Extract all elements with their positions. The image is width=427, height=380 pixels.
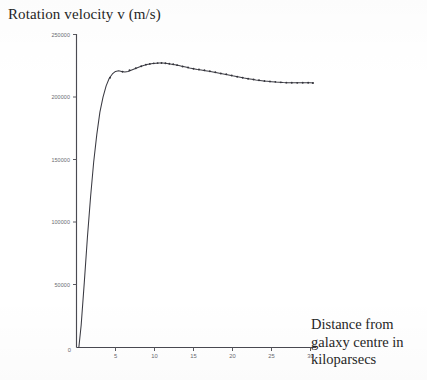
- x-axis-caption-line-3: kiloparsecs: [311, 351, 427, 369]
- x-tick-label: 15: [190, 353, 196, 359]
- x-axis-caption: Distance from galaxy centre in kiloparse…: [311, 316, 427, 369]
- data-point: [231, 75, 233, 77]
- data-point: [274, 81, 276, 83]
- data-point: [161, 62, 163, 64]
- y-axis-tick-labels: 250000 200000 150000 100000 50000 0: [51, 32, 71, 353]
- data-point: [157, 62, 159, 64]
- data-point: [214, 71, 216, 73]
- x-tick-label: 10: [151, 353, 157, 359]
- data-point: [187, 66, 189, 68]
- data-point: [242, 77, 244, 79]
- y-tick-label: 250000: [51, 32, 70, 38]
- data-point: [149, 63, 151, 65]
- data-point: [122, 71, 124, 73]
- y-tick-label: 50000: [55, 282, 71, 288]
- y-tick-label: 150000: [51, 157, 70, 163]
- data-point: [168, 63, 170, 65]
- x-tick-label: 25: [268, 353, 274, 359]
- data-point: [135, 67, 137, 69]
- x-axis-caption-line-1: Distance from: [311, 316, 427, 334]
- y-tick-label: 100000: [51, 219, 70, 225]
- data-point: [269, 81, 271, 83]
- data-point: [253, 79, 255, 81]
- data-point: [145, 64, 147, 66]
- data-point: [296, 82, 298, 84]
- rotation-curve-data-points: [109, 62, 314, 84]
- data-point: [312, 82, 314, 84]
- data-point: [153, 62, 155, 64]
- data-point: [109, 77, 111, 79]
- x-tick-label: 20: [229, 353, 235, 359]
- x-axis-tick-labels: 5 10 15 20 25 30: [114, 353, 314, 359]
- data-point: [198, 69, 200, 71]
- data-point: [182, 65, 184, 67]
- data-point: [307, 82, 309, 84]
- origin-tick-label: 0: [68, 347, 71, 353]
- data-point: [209, 70, 211, 72]
- data-point: [220, 72, 222, 74]
- data-point: [225, 73, 227, 75]
- rotation-curve-figure: Rotation velocity v (m/s) 250000 200000 …: [0, 0, 427, 380]
- data-point: [193, 68, 195, 70]
- data-point: [258, 79, 260, 81]
- data-point: [280, 81, 282, 83]
- y-tick-label: 200000: [51, 94, 70, 100]
- data-point: [264, 80, 266, 82]
- data-point: [203, 69, 205, 71]
- data-point: [176, 64, 178, 66]
- data-point: [285, 82, 287, 84]
- x-tick-label: 5: [114, 353, 117, 359]
- data-point: [172, 63, 174, 65]
- data-point: [302, 82, 304, 84]
- data-point: [129, 69, 131, 71]
- data-point: [140, 65, 142, 67]
- x-axis-caption-line-2: galaxy centre in: [311, 334, 427, 352]
- data-point: [291, 82, 293, 84]
- data-point: [164, 62, 166, 64]
- data-point: [247, 78, 249, 80]
- data-point: [236, 76, 238, 78]
- rotation-curve-line: [79, 63, 314, 347]
